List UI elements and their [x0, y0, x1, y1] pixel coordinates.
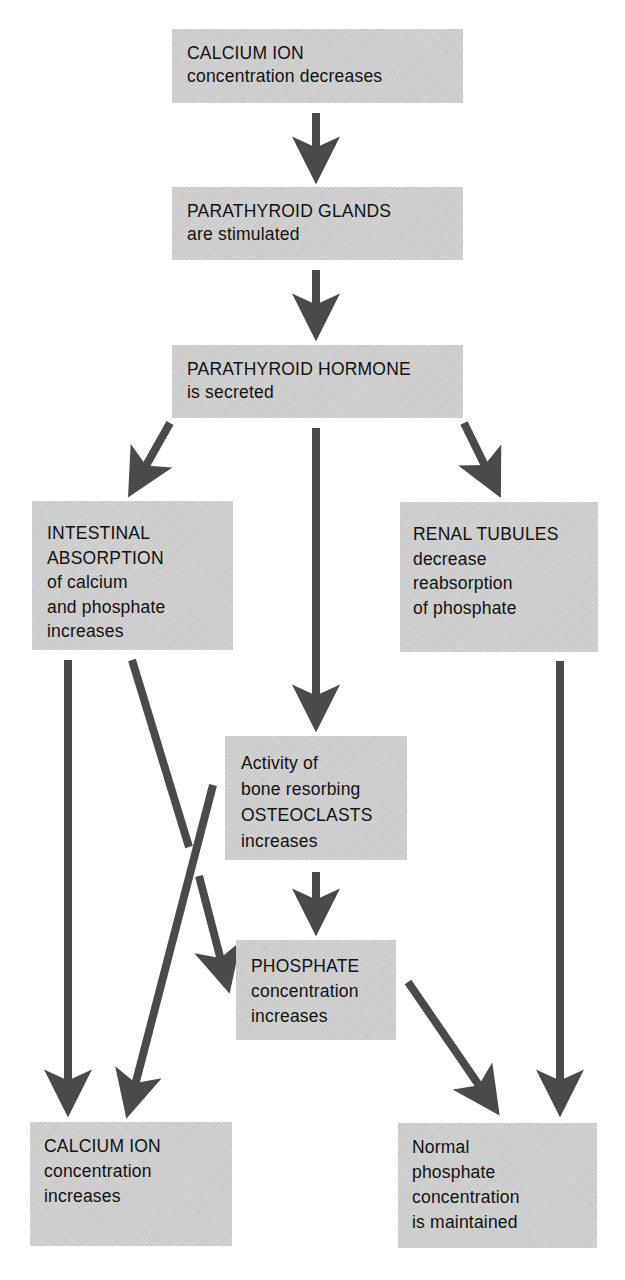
arrow-intestinal-to-phosphate-lower: [199, 876, 224, 972]
node-text: phosphate: [412, 1160, 597, 1185]
node-text: increases: [251, 1004, 396, 1029]
arrow-hormone-to-intestinal: [139, 423, 170, 478]
node-text: is maintained: [412, 1210, 597, 1235]
node-calcium-decreases: CALCIUM ION concentration decreases: [172, 29, 463, 103]
node-osteoclasts: Activity of bone resorbing OSTEOCLASTS i…: [225, 736, 407, 860]
node-parathyroid-hormone: PARATHYROID HORMONE is secreted: [172, 345, 463, 418]
node-text: increases: [47, 619, 233, 644]
node-text: concentration: [251, 979, 396, 1004]
node-text: and phosphate: [47, 595, 233, 620]
node-text: concentration: [412, 1185, 597, 1210]
node-text: INTESTINAL: [47, 521, 233, 546]
node-text: are stimulated: [187, 223, 463, 246]
node-parathyroid-glands: PARATHYROID GLANDS are stimulated: [172, 187, 463, 260]
node-text: Normal: [412, 1135, 597, 1160]
node-text: reabsorption: [413, 571, 598, 596]
node-text: ABSORPTION: [47, 546, 233, 571]
parathyroid-calcium-regulation-flowchart: CALCIUM ION concentration decreases PARA…: [0, 0, 625, 1280]
node-text: is secreted: [187, 381, 463, 404]
arrow-osteoclasts-to-calcium-increases: [132, 785, 213, 1097]
node-text: PHOSPHATE: [251, 954, 396, 979]
arrow-phosphate-to-normal: [408, 982, 487, 1097]
arrow-hormone-to-renal: [464, 423, 491, 478]
node-text: of calcium: [47, 570, 233, 595]
node-text: OSTEOCLASTS: [241, 802, 407, 828]
node-text: CALCIUM ION: [44, 1134, 232, 1159]
node-intestinal-absorption: INTESTINAL ABSORPTION of calcium and pho…: [32, 501, 233, 650]
node-text: PARATHYROID HORMONE: [187, 358, 463, 381]
node-text: increases: [44, 1184, 232, 1209]
node-text: Activity of: [241, 750, 407, 776]
node-text: bone resorbing: [241, 776, 407, 802]
node-text: increases: [241, 828, 407, 854]
node-text: RENAL TUBULES: [413, 522, 598, 547]
node-normal-phosphate: Normal phosphate concentration is mainta…: [398, 1123, 597, 1248]
node-text: decrease: [413, 547, 598, 572]
node-text: of phosphate: [413, 596, 598, 621]
node-phosphate-increases: PHOSPHATE concentration increases: [236, 940, 396, 1040]
node-text: PARATHYROID GLANDS: [187, 200, 463, 223]
node-text: concentration: [44, 1159, 232, 1184]
node-renal-tubules: RENAL TUBULES decrease reabsorption of p…: [400, 502, 598, 652]
arrow-intestinal-to-phosphate-upper: [132, 660, 189, 847]
node-text: concentration decreases: [187, 65, 463, 88]
node-text: CALCIUM ION: [187, 42, 463, 65]
node-calcium-increases: CALCIUM ION concentration increases: [30, 1122, 232, 1246]
